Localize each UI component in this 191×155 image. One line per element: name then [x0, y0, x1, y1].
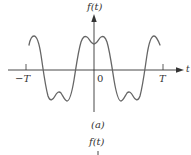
- figure: f(t) t 0 −T T (a) f(t): [0, 0, 191, 155]
- figure-caption: (a): [91, 120, 105, 130]
- t-axis-arrow-icon: [176, 67, 184, 72]
- figure-b-y-axis-label: f(t): [89, 137, 105, 147]
- waveform-curve: [29, 36, 160, 101]
- y-axis-label: f(t): [87, 2, 103, 12]
- origin-label: 0: [97, 74, 103, 84]
- f-axis-arrow-icon: [91, 14, 96, 22]
- tick-label-minus-T: −T: [15, 74, 30, 84]
- tick-label-T: T: [159, 74, 166, 84]
- x-axis-label: t: [186, 65, 190, 74]
